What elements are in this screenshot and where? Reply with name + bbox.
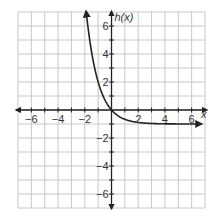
x-tick-label: 2: [135, 113, 141, 125]
x-tick-label: −2: [79, 113, 92, 125]
x-tick-label: 6: [189, 113, 195, 125]
y-tick-label: −4: [96, 160, 109, 172]
x-tick-label: −4: [52, 113, 65, 125]
x-axis-label: x: [200, 108, 207, 120]
x-tick-label: −6: [25, 113, 38, 125]
y-tick-label: 2: [102, 76, 108, 88]
y-tick-label: −6: [96, 188, 109, 200]
function-graph: −6−4−2246−6−4−2246 x h(x): [0, 0, 213, 212]
y-tick-label: 4: [102, 48, 108, 60]
y-tick-label: −2: [96, 132, 109, 144]
x-tick-label: 4: [162, 113, 168, 125]
y-axis-label: h(x): [115, 11, 134, 23]
y-tick-label: 6: [102, 20, 108, 32]
